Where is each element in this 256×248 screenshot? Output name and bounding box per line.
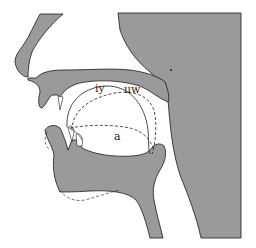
reference-dot [170,69,172,71]
lower-jaw [45,126,166,238]
pharynx-wall [118,13,241,238]
nose [15,14,63,77]
upper-incisor [58,96,63,110]
label-a: a [114,130,121,143]
tongue-contour-uw [72,92,156,154]
vocal-tract-diagram: iy uw a [0,0,256,248]
label-iy: iy [95,82,106,95]
tongue-contour-a [70,125,154,150]
label-uw: uw [124,83,141,96]
